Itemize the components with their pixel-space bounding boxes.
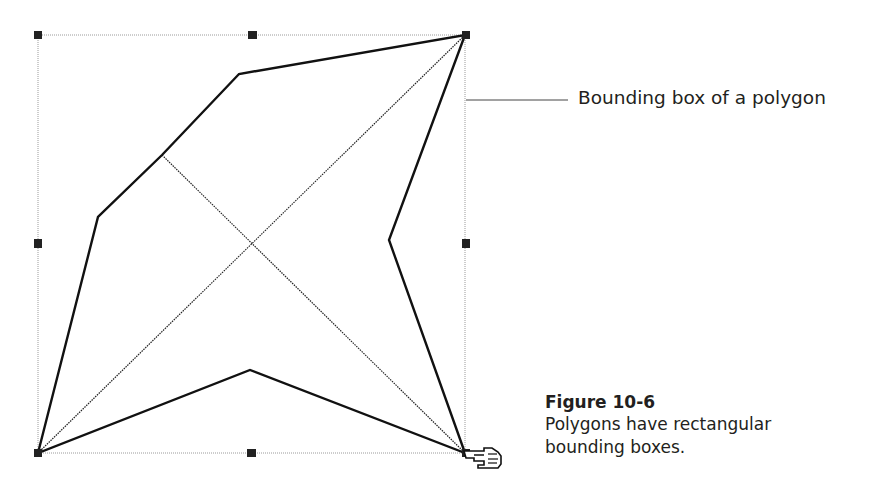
caption-line-2: bounding boxes. — [545, 436, 875, 459]
diagonal-line — [162, 155, 465, 453]
caption-line-1: Polygons have rectangular — [545, 413, 875, 436]
callout-label: Bounding box of a polygon — [578, 87, 826, 108]
handle-top-center[interactable] — [248, 31, 257, 39]
handle-middle-left[interactable] — [34, 239, 42, 248]
figure-caption: Figure 10-6 Polygons have rectangular bo… — [545, 391, 875, 459]
handle-bottom-center[interactable] — [247, 449, 256, 457]
pointing-hand-cursor-icon — [464, 448, 501, 468]
handle-top-left[interactable] — [34, 31, 42, 39]
handle-middle-right[interactable] — [462, 239, 470, 248]
handle-top-right[interactable] — [462, 31, 470, 39]
handle-bottom-left[interactable] — [34, 449, 42, 457]
caption-title: Figure 10-6 — [545, 391, 875, 413]
